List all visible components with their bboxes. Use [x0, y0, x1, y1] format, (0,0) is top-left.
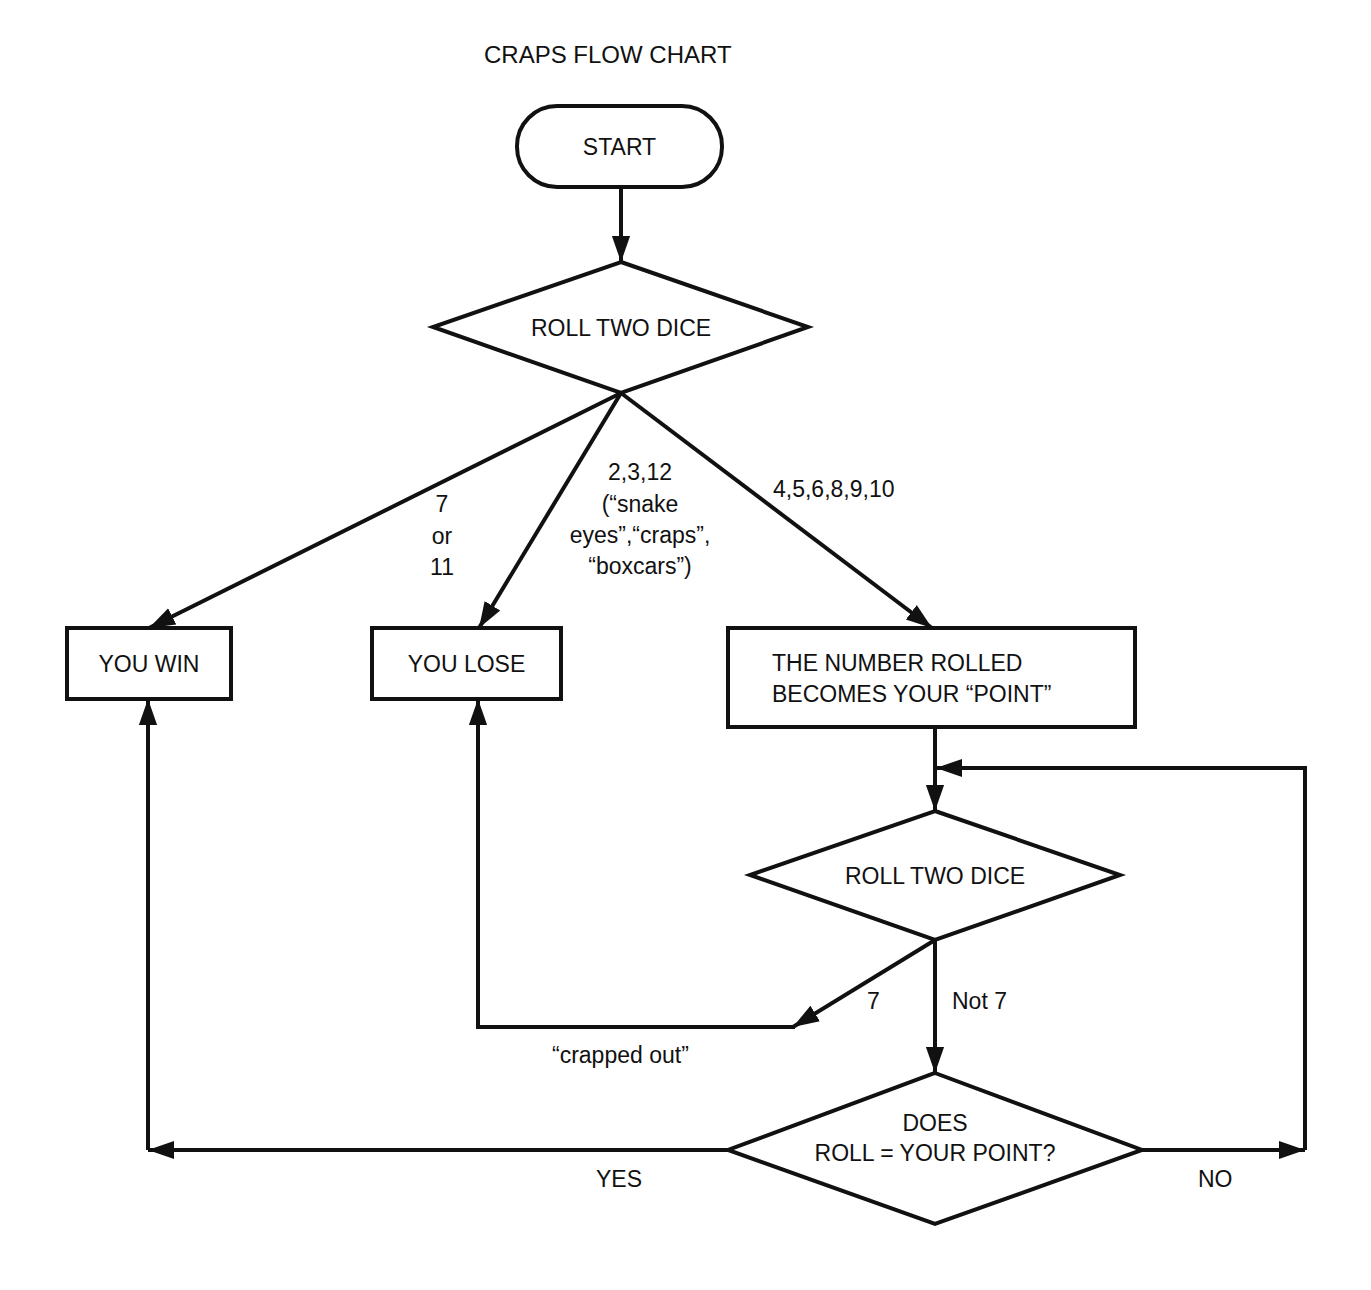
point-label-line1: THE NUMBER ROLLED	[772, 648, 1022, 678]
check-label-line2: ROLL = YOUR POINT?	[728, 1138, 1142, 1168]
edge-label-seven: 7	[867, 986, 880, 1016]
edge-label-no: NO	[1198, 1164, 1233, 1194]
you-win-label: YOU WIN	[67, 649, 231, 679]
edge-label-lose-2: (“snake	[540, 489, 740, 519]
edge-label-lose-4: “boxcars”)	[540, 551, 740, 581]
edge-label-not-seven: Not 7	[952, 986, 1007, 1016]
roll-dice-label-1: ROLL TWO DICE	[433, 313, 809, 343]
roll-dice-label-2: ROLL TWO DICE	[750, 861, 1120, 891]
edge-label-lose-3: eyes”,“craps”,	[540, 520, 740, 550]
edge-label-point: 4,5,6,8,9,10	[773, 474, 895, 504]
point-label-line2: BECOMES YOUR “POINT”	[772, 679, 1051, 709]
edge-label-win-11: 11	[412, 552, 472, 582]
seven-arrow	[793, 940, 935, 1027]
edge-label-yes: YES	[596, 1164, 642, 1194]
you-lose-label: YOU LOSE	[372, 649, 561, 679]
edge-label-win-or: or	[412, 521, 472, 551]
start-label: START	[517, 132, 722, 162]
edge-label-crapped-out: “crapped out”	[552, 1040, 689, 1070]
crapped-out-line	[478, 699, 795, 1027]
check-label-line1: DOES	[728, 1108, 1142, 1138]
edge-label-lose-1: 2,3,12	[540, 457, 740, 487]
edge-label-win-7: 7	[412, 489, 472, 519]
flowchart-canvas	[0, 0, 1371, 1290]
chart-title: CRAPS FLOW CHART	[484, 40, 732, 70]
